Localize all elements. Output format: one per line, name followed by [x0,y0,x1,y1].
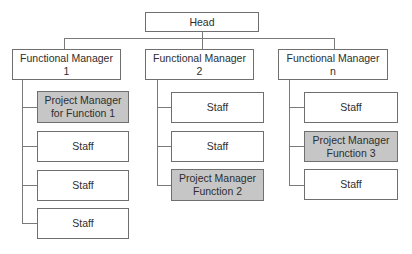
functional-manager-2-node: Functional Manager 2 [145,49,254,80]
connector-col2-child2 [157,146,171,147]
head-node: Head [145,12,259,32]
connector-col1-trunk [22,79,23,224]
connector-col2-child3 [157,185,171,186]
fm1-label-line1: Functional Manager [20,52,113,65]
project-manager-function-1-node: Project Manager for Function 1 [37,91,129,123]
staff-node: Staff [37,208,129,239]
fmn-label-line1: Functional Manager [287,52,380,65]
connector-bus-fm2 [202,38,203,49]
fm1-label-line2: 1 [64,65,70,78]
head-label: Head [189,16,214,29]
connector-col3-trunk [289,79,290,185]
staff-label: Staff [340,101,361,114]
staff-label: Staff [207,101,228,114]
staff-node: Staff [304,169,398,200]
connector-manager-bus [64,38,335,39]
pm3-label-line2: Function 3 [326,147,375,160]
connector-col3-child2 [289,146,304,147]
staff-node: Staff [37,131,129,162]
connector-col2-trunk [157,79,158,185]
project-manager-function-3-node: Project Manager Function 3 [304,131,398,162]
connector-col1-child4 [22,223,37,224]
staff-node: Staff [171,92,264,123]
staff-node: Staff [37,170,129,201]
staff-label: Staff [72,140,93,153]
staff-node: Staff [171,131,264,162]
pm1-label-line2: for Function 1 [51,107,115,120]
pm3-label-line1: Project Manager [312,134,389,147]
staff-label: Staff [207,140,228,153]
connector-bus-fmn [334,38,335,49]
connector-col2-child1 [157,107,171,108]
connector-col1-child2 [22,146,37,147]
fm2-label-line2: 2 [197,65,203,78]
functional-manager-1-node: Functional Manager 1 [12,49,121,80]
project-manager-function-2-node: Project Manager Function 2 [171,169,264,201]
pm1-label-line1: Project Manager [44,94,121,107]
functional-manager-n-node: Functional Manager n [278,49,388,80]
connector-col1-child3 [22,185,37,186]
staff-label: Staff [72,179,93,192]
fm2-label-line1: Functional Manager [153,52,246,65]
fmn-label-line2: n [330,65,336,78]
staff-label: Staff [72,217,93,230]
staff-node: Staff [304,92,398,123]
connector-col3-child1 [289,107,304,108]
pm2-label-line1: Project Manager [179,172,256,185]
connector-col3-child3 [289,185,304,186]
connector-col1-child1 [22,107,37,108]
connector-bus-fm1 [64,38,65,49]
pm2-label-line2: Function 2 [193,185,242,198]
staff-label: Staff [340,178,361,191]
